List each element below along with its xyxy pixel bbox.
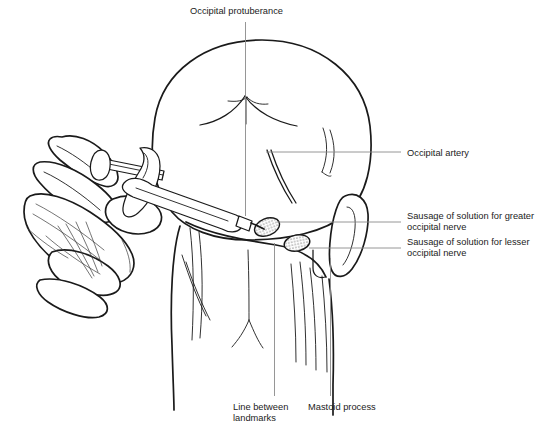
label-line-between-landmarks-line2: landmarks xyxy=(233,413,276,423)
label-sausage-greater-line1: Sausage of solution for greater xyxy=(407,211,534,221)
figure-root: Occipital protuberance Occipital artery … xyxy=(0,0,549,427)
label-occipital-artery: Occipital artery xyxy=(407,148,469,158)
label-mastoid-process: Mastoid process xyxy=(308,402,376,412)
label-sausage-lesser-line1: Sausage of solution for lesser xyxy=(407,237,529,247)
neck-and-trapezius xyxy=(171,222,333,415)
occipital-nerve-block-illustration: Occipital protuberance Occipital artery … xyxy=(0,0,549,427)
label-occipital-protuberance: Occipital protuberance xyxy=(190,6,283,16)
label-sausage-greater-line2: occipital nerve xyxy=(407,222,466,232)
label-line-between-landmarks-line1: Line between xyxy=(233,402,288,412)
label-sausage-lesser-line2: occipital nerve xyxy=(407,248,466,258)
